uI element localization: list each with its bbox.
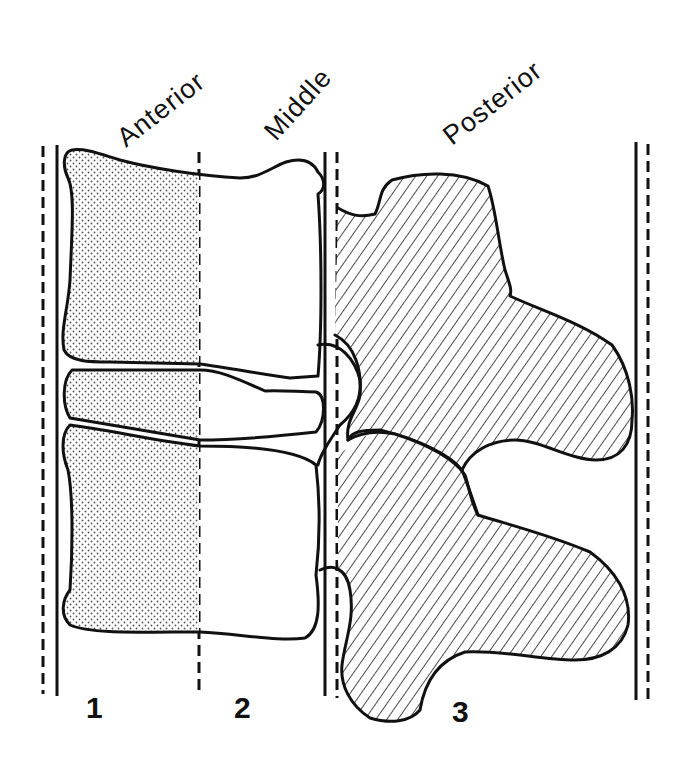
upper-vertebral-body [63, 150, 324, 378]
three-column-spine-diagram: Anterior Middle Posterior [0, 0, 685, 770]
label-middle: Middle [258, 62, 338, 146]
label-posterior: Posterior [437, 55, 548, 151]
label-anterior: Anterior [111, 66, 210, 153]
column-labels: Anterior Middle Posterior [111, 55, 548, 153]
lower-vertebral-body [63, 425, 319, 639]
column-number-2: 2 [234, 691, 251, 724]
column-number-1: 1 [86, 691, 103, 724]
upper-posterior-element [335, 174, 632, 470]
column-number-3: 3 [452, 695, 469, 728]
